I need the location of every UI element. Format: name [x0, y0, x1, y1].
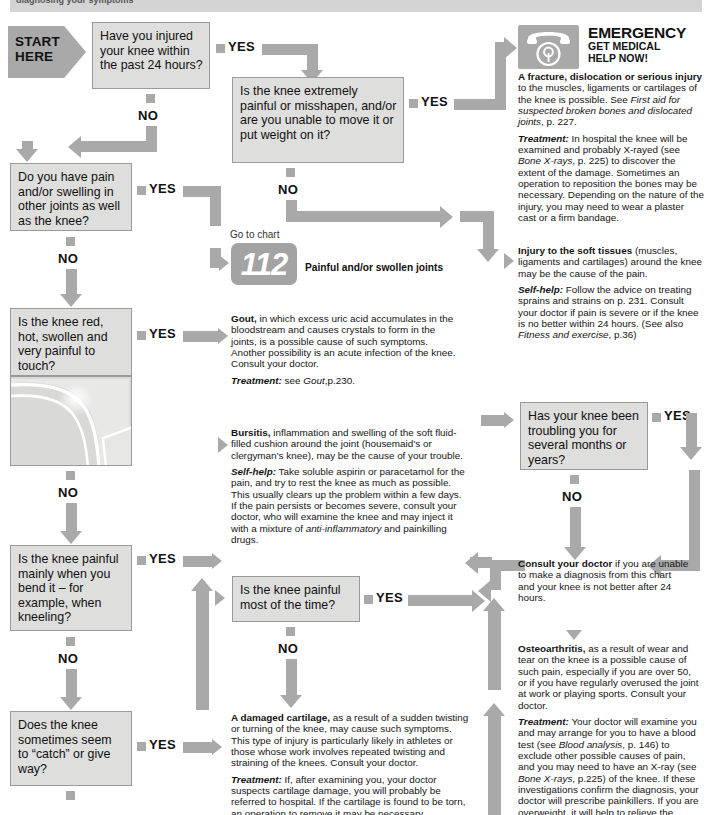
- gout-rest: in which excess uric acid accumulates in…: [231, 313, 456, 369]
- arrowhead-soft-tissues: [504, 253, 514, 269]
- bursitis-lead: Bursitis,: [231, 427, 271, 438]
- no-label-q3: NO: [58, 251, 78, 266]
- question-text: Is the knee red, hot, swollen and very p…: [18, 315, 108, 373]
- question-box-extremely-painful[interactable]: Is the knee extremely painful or misshap…: [232, 77, 404, 163]
- question-box-catch-give-way[interactable]: Does the knee sometimes seem to “catch” …: [10, 711, 132, 786]
- osteoarthritis-treatment-ref2: Bone X-rays: [518, 773, 572, 784]
- consult-doctor-body: Consult your doctor if you are unable to…: [518, 558, 690, 603]
- arrowhead-q5-no: [60, 697, 82, 710]
- arrowhead-q2-no-down: [477, 249, 499, 262]
- no-tick-q6: [66, 791, 75, 800]
- arrowhead-q7-no: [280, 695, 302, 708]
- cartilage-lead: A damaged cartilage,: [231, 712, 330, 723]
- cartilage-treatment: Treatment: If, after examining you, your…: [231, 774, 469, 815]
- bursitis-body: Bursitis, inflammation and swelling of t…: [231, 427, 469, 545]
- connector-q2-no-h: [286, 211, 441, 222]
- arrowhead-q4-no: [60, 531, 82, 544]
- arrowhead-osteoarthritis: [566, 630, 582, 640]
- yes-label-q2: YES: [421, 94, 448, 109]
- connector-q8-no-v: [570, 507, 581, 549]
- bursitis-selfhelp-lead: Self-help:: [231, 466, 276, 477]
- soft-tissues-body: Injury to the soft tissues (muscles, lig…: [518, 245, 704, 341]
- emergency-subtitle-line1: GET MEDICAL: [588, 40, 660, 52]
- knee-diagram-svg: [11, 377, 132, 466]
- osteoarthritis-treatment-lead: Treatment:: [518, 716, 569, 727]
- question-text: Do you have pain and/or swelling in othe…: [18, 170, 120, 228]
- connector-left-edge-h: [470, 557, 492, 568]
- osteoarthritis-treatment-ref1: Blood analysis: [559, 739, 623, 750]
- arrowhead-q5-yes: [212, 553, 222, 569]
- emergency-subtitle: GET MEDICAL HELP NOW!: [588, 41, 660, 64]
- soft-tissues-paragraph: Injury to the soft tissues (muscles, lig…: [518, 245, 704, 279]
- yes-tick-q6: [137, 742, 146, 751]
- connector-q2-no-v2: [483, 211, 494, 251]
- chart-number-badge[interactable]: 112: [231, 243, 297, 285]
- connector-q4-no-v: [66, 503, 77, 533]
- connector-q4-yes-h: [183, 331, 219, 342]
- arrowhead-q6-yes: [212, 739, 222, 755]
- question-box-painful-bending[interactable]: Is the knee painful mainly when you bend…: [10, 545, 132, 631]
- arrowhead-q3-no: [60, 294, 82, 307]
- telephone-icon: [518, 25, 579, 69]
- no-tick-q7: [286, 627, 295, 636]
- arrowhead-q8-yes: [680, 447, 702, 460]
- consult-doctor-lead: Consult your doctor: [518, 558, 612, 569]
- osteoarthritis-lead: Osteoarthritis,: [518, 643, 586, 654]
- question-box-injured-24h[interactable]: Have you injured your knee within the pa…: [92, 22, 210, 89]
- connector-q1-yes-v: [307, 44, 318, 72]
- start-here-line2: HERE: [15, 49, 53, 64]
- yes-tick-q5: [137, 556, 146, 565]
- question-box-red-hot-swollen[interactable]: Is the knee red, hot, swollen and very p…: [10, 308, 132, 376]
- question-text: Is the knee extremely painful or misshap…: [240, 84, 396, 142]
- connector-upward-2: [488, 715, 501, 815]
- question-box-other-joints[interactable]: Do you have pain and/or swelling in othe…: [10, 163, 132, 231]
- arrowhead-q2-no-right: [440, 206, 453, 228]
- telephone-icon-svg: [518, 25, 579, 69]
- soft-tissues-selfhelp-lead: Self-help:: [518, 284, 563, 295]
- question-text: Is the knee painful mainly when you bend…: [18, 552, 119, 624]
- gout-treatment-lead: Treatment:: [231, 375, 282, 386]
- arrowhead-upward-1: [483, 598, 505, 611]
- connector-into-q8-h: [481, 415, 506, 426]
- no-label-q7: NO: [278, 641, 298, 656]
- emergency-body: A fracture, dislocation or serious injur…: [518, 71, 704, 223]
- soft-tissues-lead: Injury to the soft tissues: [518, 245, 632, 256]
- question-text: Have you injured your knee within the pa…: [100, 29, 203, 72]
- arrowhead-into-q7: [215, 590, 225, 606]
- emergency-lead: A fracture, dislocation or serious injur…: [518, 71, 702, 82]
- emergency-treatment: Treatment: In hospital the knee will be …: [518, 133, 704, 224]
- yes-label-q6: YES: [149, 737, 176, 752]
- consult-doctor-paragraph: Consult your doctor if you are unable to…: [518, 558, 690, 603]
- question-text: Has your knee been troubling you for sev…: [528, 409, 639, 467]
- no-tick-q8: [570, 475, 579, 484]
- start-here-line1: START: [15, 34, 60, 49]
- soft-tissues-selfhelp: Self-help: Follow the advice on treating…: [518, 284, 704, 341]
- connector-q6-yes-h: [183, 742, 213, 753]
- yes-tick-q7: [364, 595, 373, 604]
- no-tick-q2: [286, 168, 295, 177]
- start-here-marker: START HERE: [8, 26, 86, 78]
- question-box-troubling-months[interactable]: Has your knee been troubling you for sev…: [520, 402, 648, 470]
- gout-lead: Gout,: [231, 313, 257, 324]
- arrowhead-q1-no-down: [16, 149, 38, 162]
- question-box-painful-most-time[interactable]: Is the knee painful most of the time?: [232, 576, 360, 622]
- no-label-q4: NO: [58, 485, 78, 500]
- connector-q3-no-v: [66, 269, 77, 296]
- soft-tissues-selfhelp-ref: Fitness and exercise: [518, 329, 609, 340]
- no-label-q8: NO: [562, 489, 582, 504]
- cartilage-treatment-lead: Treatment:: [231, 774, 282, 785]
- osteoarthritis-treatment: Treatment: Your doctor will examine you …: [518, 716, 700, 815]
- osteoarthritis-body: Osteoarthritis, as a result of wear and …: [518, 643, 700, 815]
- gout-treatment-ref: Gout: [303, 375, 324, 386]
- yes-tick-q2: [409, 99, 418, 108]
- soft-tissues-selfhelp-p2: , p.36): [609, 329, 637, 340]
- connector-left-upward: [196, 590, 209, 710]
- question-text: Does the knee sometimes seem to “catch” …: [18, 718, 112, 776]
- bursitis-paragraph: Bursitis, inflammation and swelling of t…: [231, 427, 469, 461]
- no-tick-q3: [66, 237, 75, 246]
- yes-tick-q1: [216, 44, 225, 53]
- yes-label-q3: YES: [149, 181, 176, 196]
- arrowhead-q1-no-left: [68, 136, 81, 158]
- connector-q5-no-v: [66, 669, 77, 699]
- no-tick-q5: [66, 637, 75, 646]
